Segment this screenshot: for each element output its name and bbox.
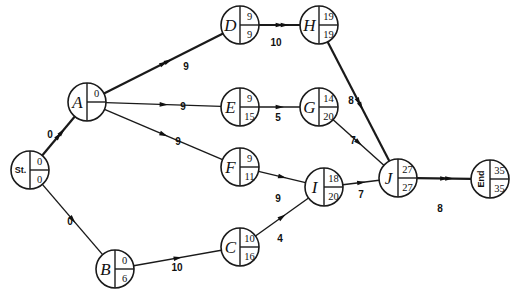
- node-A: A0: [68, 83, 106, 121]
- edge-weight: 10: [270, 37, 282, 48]
- node-latest-time: 15: [244, 111, 255, 122]
- arrowhead-icon: [276, 105, 284, 110]
- edge-weight: 9: [175, 136, 181, 147]
- node-C: C1016: [221, 228, 259, 266]
- arrowhead-icon: [163, 59, 172, 65]
- edge-G-J: [333, 120, 384, 166]
- node-St: St.00: [11, 151, 49, 189]
- edge-weight: 9: [275, 193, 281, 204]
- node-latest-time: 27: [402, 182, 413, 193]
- edge-weight: 0: [67, 216, 73, 227]
- node-label: G: [303, 98, 315, 117]
- node-label: F: [224, 158, 236, 177]
- edge-A-E: [106, 102, 221, 107]
- node-E: E915: [221, 88, 259, 126]
- edge-F-I: [258, 171, 305, 182]
- edge-E-G: [259, 105, 300, 110]
- node-earliest-time: 9: [247, 93, 252, 104]
- activity-network-diagram: St.00A0B06C1016D99E915F911G1420H1919I182…: [0, 0, 514, 294]
- node-earliest-time: 18: [328, 173, 339, 184]
- node-earliest-time: 9: [247, 153, 252, 164]
- node-latest-time: 20: [323, 111, 334, 122]
- edge-weight: 7: [358, 189, 364, 200]
- node-B: B06: [96, 250, 134, 288]
- node-label: E: [224, 98, 236, 117]
- node-label: B: [100, 260, 111, 279]
- node-F: F911: [221, 148, 259, 186]
- node-earliest-time: 19: [323, 11, 334, 22]
- edge-weight: 4: [277, 233, 283, 244]
- node-earliest-time: 0: [122, 255, 127, 266]
- edge-weight: 8: [348, 95, 354, 106]
- edge-A-F: [104, 109, 222, 159]
- arrowhead-icon: [159, 131, 168, 136]
- edge-A-D: [104, 34, 223, 94]
- edge-weight: 7: [350, 135, 356, 146]
- node-I: I1820: [305, 168, 343, 206]
- node-latest-time: 11: [244, 171, 254, 182]
- node-End: End3535: [471, 160, 509, 198]
- node-earliest-time: 9: [247, 11, 252, 22]
- node-latest-time: 9: [247, 29, 252, 40]
- node-latest-time: 0: [37, 174, 42, 185]
- node-label: A: [71, 93, 83, 112]
- edge-weight: 0: [47, 129, 53, 140]
- arrowhead-icon: [281, 23, 289, 28]
- node-earliest-time: 0: [94, 88, 99, 99]
- edge-weight: 9: [180, 101, 186, 112]
- edges-layer: [42, 23, 471, 266]
- edge-I-J: [343, 180, 379, 185]
- arrowhead-icon: [357, 181, 366, 186]
- node-earliest-time: 0: [37, 156, 42, 167]
- node-label: H: [302, 16, 317, 35]
- node-D: D99: [221, 6, 259, 44]
- arrowhead-icon: [445, 176, 453, 181]
- edge-C-I: [255, 198, 308, 236]
- node-latest-time: 19: [323, 29, 334, 40]
- node-earliest-time: 14: [323, 93, 334, 104]
- node-latest-time: 6: [122, 273, 127, 284]
- edge-weight: 8: [437, 203, 443, 214]
- node-latest-time: 35: [494, 183, 505, 194]
- arrowhead-icon: [357, 101, 363, 109]
- edge-weight: 10: [171, 262, 183, 273]
- edge-weight: 9: [183, 61, 189, 72]
- edge-D-H: [259, 23, 300, 28]
- edge-J-End: [417, 176, 471, 181]
- node-J: J2727: [379, 159, 417, 197]
- arrowhead-icon: [160, 102, 168, 107]
- node-H: H1919: [300, 6, 338, 44]
- node-earliest-time: 27: [402, 164, 413, 175]
- node-latest-time: 16: [244, 251, 255, 262]
- node-earliest-time: 10: [244, 233, 255, 244]
- node-label: C: [225, 238, 237, 257]
- nodes-layer: St.00A0B06C1016D99E915F911G1420H1919I182…: [11, 6, 509, 288]
- node-label: D: [223, 16, 237, 35]
- node-label: End: [476, 171, 486, 188]
- node-G: G1420: [300, 88, 338, 126]
- node-label: St.: [15, 165, 27, 175]
- node-earliest-time: 35: [494, 165, 505, 176]
- arrowhead-icon: [278, 174, 287, 179]
- node-latest-time: 20: [328, 191, 339, 202]
- edge-weight: 5: [275, 112, 281, 123]
